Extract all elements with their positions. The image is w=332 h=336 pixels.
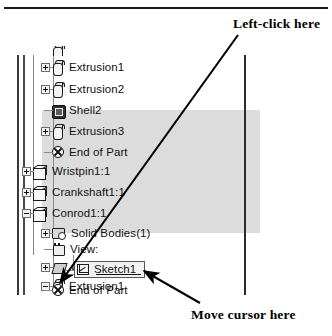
screenshot-stage: Extrusion1 Extrusion2 Shell2 Extrusion3 … [0, 0, 332, 336]
annotation-left-click-label: Left-click here [233, 16, 320, 32]
arrow-left-click [60, 35, 238, 283]
arrow-move-cursor [144, 271, 200, 303]
annotation-move-cursor-label: Move cursor here [191, 307, 296, 323]
annotation-arrows [0, 0, 332, 336]
